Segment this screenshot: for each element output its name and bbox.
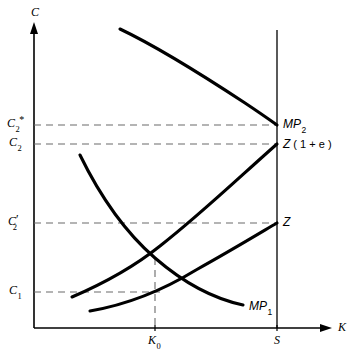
c2-subscript: 2 xyxy=(18,143,22,153)
y-tick-label-c2-star: C2* xyxy=(7,117,24,132)
curve-mp2 xyxy=(120,29,277,125)
y-axis-title: C xyxy=(31,6,39,18)
mp2-subscript: 2 xyxy=(302,125,307,135)
c2-star-base: C xyxy=(7,116,15,130)
c2-star-asterisk: * xyxy=(19,114,24,125)
curve-label-z: Z xyxy=(283,216,290,228)
c2-prime-subscript: 2 xyxy=(13,222,17,232)
c2-base: C xyxy=(9,135,17,149)
c1-base: C xyxy=(9,283,17,297)
curve-label-mp2: MP2 xyxy=(283,118,306,133)
curve-label-mp1: MP1 xyxy=(249,300,272,315)
s-base: S xyxy=(274,333,280,347)
y-axis-arrowhead xyxy=(30,22,38,34)
k0-subscript: 0 xyxy=(157,341,161,351)
economics-diagram: C K C2* C2 C′2 C1 K0 S MP2 Z( 1 + e ) Z … xyxy=(0,0,356,364)
y-tick-label-c2: C2 xyxy=(9,136,21,151)
x-tick-label-s: S xyxy=(274,334,280,346)
x-axis-title: K xyxy=(338,321,346,333)
x-axis-group xyxy=(34,324,332,332)
y-tick-label-c1: C1 xyxy=(9,284,21,299)
x-tick-label-k0: K0 xyxy=(148,334,160,349)
mp1-base: MP xyxy=(249,299,267,313)
y-axis-group xyxy=(30,22,38,328)
z1e-expression: ( 1 + e ) xyxy=(293,138,331,150)
mp2-base: MP xyxy=(283,117,301,131)
x-axis-arrowhead xyxy=(320,324,332,332)
c2-star-subscript: 2 xyxy=(16,124,20,134)
k0-base: K xyxy=(148,333,156,347)
curve-z xyxy=(90,223,277,311)
chart-canvas xyxy=(0,0,356,364)
y-tick-label-c2-prime: C′2 xyxy=(8,215,23,230)
z-symbol: Z xyxy=(283,215,290,229)
mp1-subscript: 1 xyxy=(268,307,273,317)
curve-label-z-one-plus-e: Z( 1 + e ) xyxy=(283,138,332,150)
c1-subscript: 1 xyxy=(18,291,22,301)
z1e-symbol: Z xyxy=(283,137,290,151)
